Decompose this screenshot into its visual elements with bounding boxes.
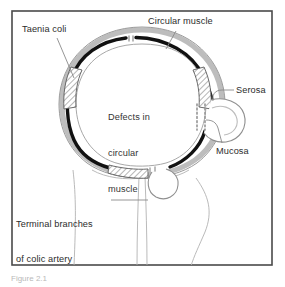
taenia-coli-right	[193, 67, 211, 109]
label-mucosa: Mucosa	[216, 146, 249, 158]
label-defects-in-circular-muscle: Defects in circular muscle	[108, 87, 150, 219]
circular-muscle-right-lower	[170, 131, 205, 167]
label-defects-line3: muscle	[108, 183, 150, 195]
diverticulum-lower	[148, 169, 178, 199]
label-serosa: Serosa	[236, 85, 266, 97]
muscle-defect-top	[129, 36, 133, 41]
figure-caption: Figure 2.1	[11, 274, 47, 287]
label-circular-muscle: Circular muscle	[148, 16, 213, 28]
label-defects-line2: circular	[108, 147, 150, 159]
label-taenia-coli: Taenia coli	[22, 24, 67, 36]
label-defects-line1: Defects in	[108, 111, 150, 123]
figure-container: Taenia coli Circular muscle Serosa Mucos…	[0, 0, 285, 287]
label-terminal-branches-line2: of colic artery	[16, 254, 93, 266]
muscle-defect-lower	[150, 167, 155, 172]
label-terminal-branches-line1: Terminal branches	[16, 219, 93, 231]
